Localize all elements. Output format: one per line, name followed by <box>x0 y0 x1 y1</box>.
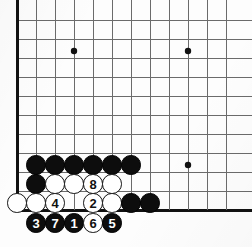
stone-black <box>45 155 65 175</box>
stone-black <box>121 155 141 175</box>
move-number-label: 6 <box>89 217 96 230</box>
stone-white <box>7 193 27 213</box>
stone-black <box>102 155 122 175</box>
stone-white <box>45 174 65 194</box>
move-number-label: 1 <box>70 217 77 230</box>
star-point-2 <box>185 162 191 168</box>
stone-white-move-6: 6 <box>83 213 103 233</box>
stone-black <box>140 193 160 213</box>
star-point-0 <box>71 48 77 54</box>
stone-black <box>26 174 46 194</box>
stone-black <box>83 155 103 175</box>
move-number-label: 8 <box>89 178 96 191</box>
stone-white-move-8: 8 <box>83 174 103 194</box>
stone-black-move-5: 5 <box>102 213 122 233</box>
stone-black <box>26 155 46 175</box>
move-number-label: 2 <box>89 197 96 210</box>
stone-white <box>64 174 84 194</box>
stone-white <box>102 193 122 213</box>
stone-white <box>26 193 46 213</box>
move-number-label: 4 <box>51 197 58 210</box>
stone-black <box>121 193 141 213</box>
move-number-label: 5 <box>108 217 115 230</box>
stone-white-move-4: 4 <box>45 193 65 213</box>
go-board-diagram: 84237165 <box>0 0 252 247</box>
stone-black-move-7: 7 <box>45 213 65 233</box>
star-point-1 <box>185 48 191 54</box>
move-number-label: 3 <box>32 217 39 230</box>
stone-white-move-2: 2 <box>83 193 103 213</box>
move-number-label: 7 <box>51 217 58 230</box>
stone-black-move-1: 1 <box>64 213 84 233</box>
stone-black <box>64 155 84 175</box>
stone-black-move-3: 3 <box>26 213 46 233</box>
stone-white <box>102 174 122 194</box>
